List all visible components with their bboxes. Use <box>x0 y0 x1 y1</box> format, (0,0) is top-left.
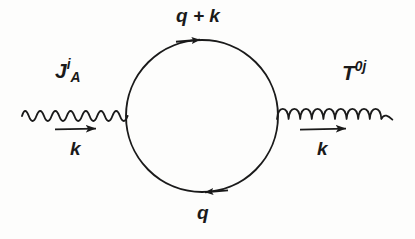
gluon-coil-line <box>277 109 381 119</box>
momentum-arrow-left-icon <box>55 129 96 130</box>
label-loop-top-momentum: q + k <box>176 6 220 25</box>
gluon-tail <box>381 116 392 120</box>
loop-bottom-arrow-icon <box>205 190 228 192</box>
label-left-vertex-operator: JiA <box>55 58 81 85</box>
loop-top-arrow-icon <box>176 40 200 42</box>
label-outgoing-momentum: k <box>317 139 328 158</box>
label-loop-bottom-momentum: q <box>197 203 209 222</box>
operator-superscript-0j: 0j <box>355 58 367 74</box>
feynman-diagram-figure: JiA T0j q + k q k k <box>0 0 415 239</box>
fermion-loop-circle <box>126 40 278 192</box>
wavy-photon-line <box>22 111 128 121</box>
operator-base-J: J <box>55 59 67 82</box>
operator-base-T: T <box>342 61 355 84</box>
label-right-vertex-operator: T0j <box>342 60 366 83</box>
momentum-arrow-right-icon <box>300 129 346 130</box>
label-incoming-momentum: k <box>70 139 81 158</box>
operator-subscript-A: A <box>71 69 81 85</box>
